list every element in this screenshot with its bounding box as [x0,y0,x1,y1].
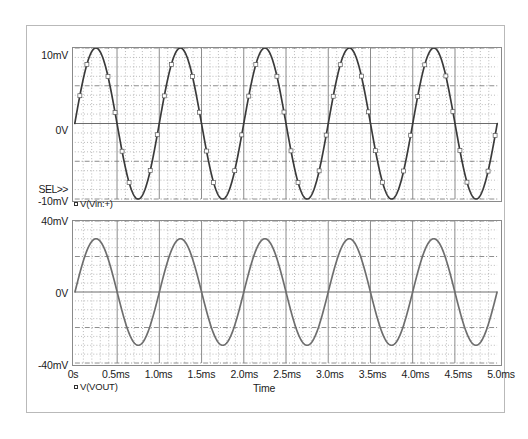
x-tick-4: 2.0ms [220,368,268,380]
bottom-ytick-0v: 0V [0,287,68,299]
x-tick-10: 5.0ms [477,368,525,380]
x-tick-9: 4.5ms [434,368,482,380]
x-axis-title: Time [0,382,528,394]
selection-marker[interactable]: SEL>> [0,183,68,195]
x-tick-1: 0.5ms [92,368,140,380]
x-tick-7: 3.5ms [349,368,397,380]
top-ytick-neg10mv: -10mV [0,195,68,207]
legend-label-vin: V(Vin:+) [80,198,113,209]
plot-panel-top[interactable] [72,47,502,202]
top-ytick-0v: 0V [0,124,68,136]
legend-marker-icon [74,202,78,206]
x-tick-8: 4.0ms [391,368,439,380]
x-tick-0: 0s [49,368,97,380]
x-tick-2: 1.0ms [135,368,183,380]
x-tick-3: 1.5ms [177,368,225,380]
top-plot-canvas [73,48,501,201]
legend-top[interactable]: V(Vin:+) [74,198,113,209]
bottom-ytick-40mv: 40mV [0,215,68,227]
probe-plot-window: 10mV 0V -10mV SEL>> V(Vin:+) 40mV 0V -40… [0,0,528,439]
x-tick-5: 2.5ms [263,368,311,380]
bottom-plot-canvas [73,221,501,365]
x-tick-6: 3.0ms [306,368,354,380]
top-ytick-10mv: 10mV [0,49,68,61]
plot-panel-bottom[interactable] [72,220,502,366]
